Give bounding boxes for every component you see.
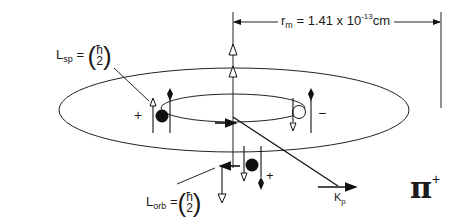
left-quark-filled xyxy=(156,110,169,123)
radius-label: rm = 1.41 x 10-13cm xyxy=(281,13,390,28)
right-spin-open-arrow xyxy=(290,123,296,131)
right-spin-diamond-arrow xyxy=(308,88,314,101)
front-spin-diamond-arrow xyxy=(258,177,264,190)
front-spin-open-arrow xyxy=(241,173,247,181)
right-quark-open xyxy=(293,106,306,119)
front-charge-label: + xyxy=(266,168,274,183)
orbital-open-arrow xyxy=(218,194,226,203)
left-spin-diamond-arrow xyxy=(167,88,173,101)
front-quark-filled xyxy=(246,159,259,172)
left-spin-open-arrow xyxy=(150,98,156,106)
particle-label: π+ xyxy=(410,170,440,205)
outer-orbit-ellipse xyxy=(59,68,409,152)
spin-leader-line xyxy=(114,68,149,101)
right-charge-label: − xyxy=(318,105,326,121)
momentum-label: Kp xyxy=(334,191,346,203)
axis-open-arrow-upper xyxy=(229,44,237,55)
orbital-leader-line xyxy=(177,168,215,184)
spin-angular-momentum-label: Lsp = (ħ2) xyxy=(56,43,112,69)
orbital-angular-momentum-label: Lorb =(ħ2) xyxy=(146,190,202,216)
pion-model-diagram xyxy=(0,0,465,224)
left-charge-label: + xyxy=(134,107,142,123)
